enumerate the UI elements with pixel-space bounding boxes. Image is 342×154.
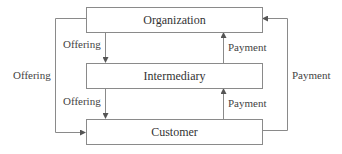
- edge-label-payment-customer-intermediary: Payment: [228, 97, 267, 109]
- edge-label-payment-outer: Payment: [292, 69, 331, 81]
- edge-label-offering-intermediary-customer: Offering: [63, 95, 101, 107]
- node-label: Intermediary: [144, 69, 206, 84]
- node-label: Organization: [143, 13, 205, 28]
- arrow-customer-to-org-outer: [262, 19, 288, 131]
- edge-label-payment-intermediary-org: Payment: [228, 41, 267, 53]
- arrow-org-to-customer-outer: [56, 19, 87, 133]
- edge-label-offering-outer: Offering: [13, 69, 51, 81]
- node-label: Customer: [151, 125, 198, 140]
- node-organization: Organization: [86, 7, 263, 33]
- node-customer: Customer: [86, 119, 263, 145]
- edge-label-offering-org-intermediary: Offering: [63, 38, 101, 50]
- node-intermediary: Intermediary: [86, 63, 263, 89]
